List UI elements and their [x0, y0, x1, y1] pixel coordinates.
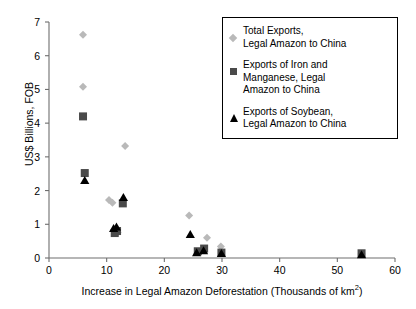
y-tick-label: 1 — [34, 218, 40, 230]
y-tick-label: 0 — [34, 252, 40, 264]
legend-item-soybean: Exports of Soybean, Legal Amazon to Chin… — [229, 106, 391, 131]
scatter-chart-figure: 010203040506001234567 US$ Billions, FOB … — [0, 0, 416, 309]
y-tick-label: 5 — [34, 83, 40, 95]
y-tick-label: 6 — [34, 50, 40, 62]
data-point — [121, 142, 129, 150]
x-axis-label: Increase in Legal Amazon Deforestation (… — [49, 283, 395, 297]
x-tick-label: 0 — [46, 264, 52, 276]
legend-label-iron-manganese: Exports of Iron and Manganese, Legal Ama… — [243, 59, 328, 97]
x-tick-label: 60 — [389, 264, 401, 276]
square-marker-icon — [229, 59, 243, 79]
y-tick-label: 2 — [34, 185, 40, 197]
x-tick-label: 50 — [331, 264, 343, 276]
legend-item-total-exports: Total Exports, Legal Amazon to China — [229, 25, 391, 50]
y-tick-label: 3 — [34, 151, 40, 163]
x-tick-label: 30 — [216, 264, 228, 276]
y-tick-label: 4 — [34, 117, 40, 129]
data-point — [203, 234, 211, 242]
data-point — [119, 193, 128, 201]
legend-item-iron-manganese: Exports of Iron and Manganese, Legal Ama… — [229, 59, 391, 97]
x-axis-label-close: ) — [359, 285, 363, 297]
x-tick-label: 20 — [158, 264, 170, 276]
data-point — [79, 83, 87, 91]
legend-label-soybean: Exports of Soybean, Legal Amazon to Chin… — [243, 106, 346, 131]
data-point — [80, 176, 89, 184]
data-point — [79, 112, 87, 120]
x-axis-label-main: Increase in Legal Amazon Deforestation (… — [82, 285, 355, 297]
diamond-marker-icon — [229, 25, 243, 45]
y-tick-label: 7 — [34, 16, 40, 28]
data-point — [79, 31, 87, 39]
chart-legend: Total Exports, Legal Amazon to China Exp… — [222, 17, 398, 139]
x-tick-label: 10 — [101, 264, 113, 276]
legend-label-total-exports: Total Exports, Legal Amazon to China — [243, 25, 346, 50]
triangle-marker-icon — [229, 106, 243, 126]
data-point — [186, 230, 195, 238]
y-axis-label: US$ Billions, FOB — [23, 49, 35, 199]
data-point — [185, 212, 193, 220]
data-point — [81, 169, 89, 177]
x-tick-label: 40 — [274, 264, 286, 276]
